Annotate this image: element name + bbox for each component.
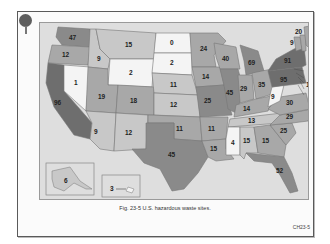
label-ga: 15 bbox=[262, 137, 270, 144]
label-nh: 20 bbox=[295, 28, 303, 35]
label-mi: 69 bbox=[248, 59, 256, 66]
label-mn: 24 bbox=[200, 45, 208, 52]
label-az: 9 bbox=[94, 128, 98, 135]
label-va: 30 bbox=[286, 99, 294, 106]
label-nj: 116 bbox=[306, 81, 308, 88]
state-fl bbox=[246, 153, 298, 193]
label-tx: 45 bbox=[168, 151, 176, 158]
label-ms: 4 bbox=[231, 139, 235, 146]
label-vt: 9 bbox=[290, 39, 294, 46]
label-nm: 12 bbox=[125, 129, 133, 136]
label-wa: 47 bbox=[69, 34, 77, 41]
label-id: 9 bbox=[97, 55, 101, 62]
label-al: 15 bbox=[243, 137, 251, 144]
label-co: 18 bbox=[130, 97, 138, 104]
label-la: 15 bbox=[210, 145, 218, 152]
label-ia: 14 bbox=[202, 73, 210, 80]
us-map: 47 12 96 1 9 15 2 19 18 9 12 0 2 11 12 1… bbox=[39, 22, 309, 200]
label-tn: 13 bbox=[248, 117, 256, 124]
label-mo: 25 bbox=[204, 97, 212, 104]
label-hi: 3 bbox=[110, 185, 114, 192]
label-mt: 15 bbox=[125, 41, 133, 48]
label-in: 29 bbox=[240, 85, 248, 92]
label-pa: 95 bbox=[280, 76, 288, 83]
label-wi: 40 bbox=[222, 55, 230, 62]
us-map-svg: 47 12 96 1 9 15 2 19 18 9 12 0 2 11 12 1… bbox=[40, 23, 308, 199]
label-sd: 2 bbox=[170, 59, 174, 66]
label-ak: 6 bbox=[64, 177, 68, 184]
label-ks: 12 bbox=[170, 101, 178, 108]
label-nd: 0 bbox=[170, 39, 174, 46]
label-ut: 19 bbox=[98, 93, 106, 100]
label-il: 45 bbox=[226, 89, 234, 96]
label-or: 12 bbox=[62, 51, 70, 58]
label-ok: 11 bbox=[176, 125, 183, 132]
label-ne: 11 bbox=[170, 81, 177, 88]
label-oh: 35 bbox=[258, 81, 266, 88]
label-sc: 25 bbox=[280, 127, 288, 134]
figure-code: CH23-5 bbox=[293, 224, 310, 230]
pushpin-needle bbox=[25, 26, 27, 34]
label-ca: 96 bbox=[54, 99, 62, 106]
label-wy: 2 bbox=[129, 69, 133, 76]
label-nv: 1 bbox=[74, 79, 78, 86]
figure-caption: Fig. 23-5 U.S. hazardous waste sites. bbox=[0, 205, 330, 211]
label-ky: 14 bbox=[243, 105, 251, 112]
label-ar: 11 bbox=[208, 125, 215, 132]
label-fl: 52 bbox=[276, 167, 284, 174]
label-wv: 9 bbox=[271, 93, 275, 100]
label-nc: 29 bbox=[286, 113, 294, 120]
hawaii-inset-box bbox=[102, 175, 140, 197]
label-ny: 91 bbox=[284, 57, 292, 64]
